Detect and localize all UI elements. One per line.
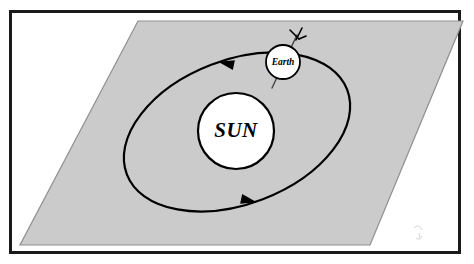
earth-sun-orbit-diagram: SUN Earth [0, 0, 474, 264]
earth-label: Earth [271, 57, 295, 67]
sun-label: SUN [214, 118, 258, 142]
diagram-canvas: SUN Earth [0, 0, 474, 264]
